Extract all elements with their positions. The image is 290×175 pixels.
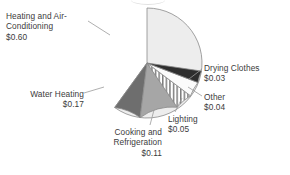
slice-label-other: Other $0.04 bbox=[204, 92, 284, 113]
pie-chart-figure: Heating and Air- Conditioning $0.60 Wate… bbox=[0, 0, 290, 175]
slice-label-cooking-and-refrigeration: Cooking and Refrigeration $0.11 bbox=[84, 127, 162, 158]
slice-label-lighting: Lighting $0.05 bbox=[168, 114, 246, 135]
slice-label-heating-and-air-conditioning: Heating and Air- Conditioning $0.60 bbox=[6, 11, 88, 42]
slice-label-drying-clothes: Drying Clothes $0.03 bbox=[204, 63, 288, 84]
slice-label-water-heating: Water Heating $0.17 bbox=[2, 89, 84, 110]
leader-line-water-heating bbox=[84, 87, 104, 93]
pie-slices bbox=[115, 8, 202, 118]
leader-line-heating bbox=[88, 21, 110, 35]
